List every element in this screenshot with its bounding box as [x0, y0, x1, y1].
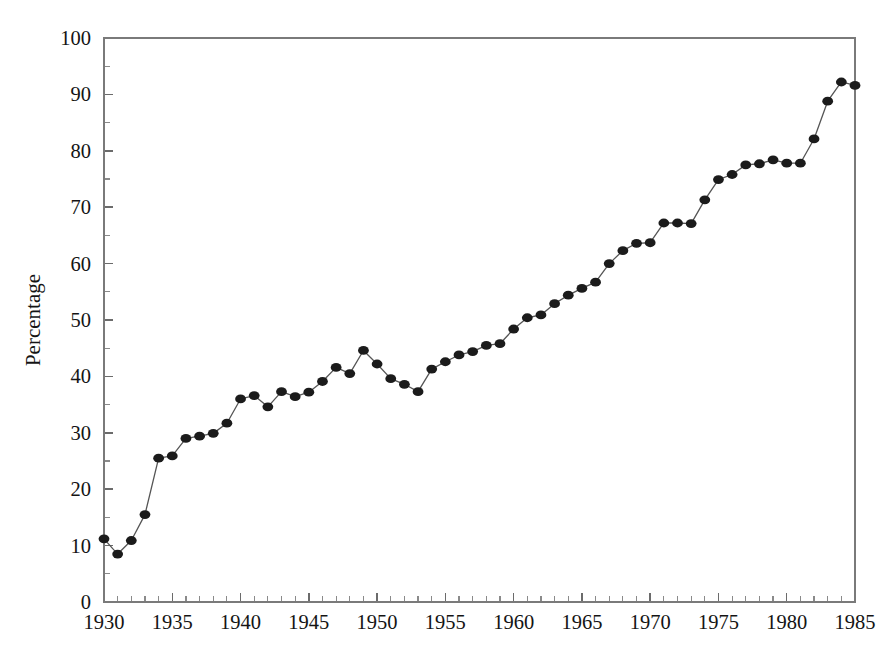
data-point: [577, 284, 588, 293]
data-point: [672, 219, 683, 228]
data-point: [112, 550, 123, 559]
y-tick-label: 40: [71, 365, 92, 387]
data-point: [781, 159, 792, 168]
y-tick-label: 60: [71, 253, 92, 275]
data-point: [631, 239, 642, 248]
x-tick-label: 1930: [84, 611, 125, 633]
data-point: [235, 395, 246, 404]
y-tick-label: 70: [71, 196, 92, 218]
x-tick-label: 1975: [698, 611, 739, 633]
data-point: [262, 402, 273, 411]
data-point: [495, 339, 506, 348]
data-point: [221, 419, 232, 428]
x-tick-label: 1970: [630, 611, 671, 633]
data-point: [331, 363, 342, 372]
y-axis-tick-labels: 0102030405060708090100: [60, 27, 91, 613]
data-point: [467, 347, 478, 356]
data-point: [850, 81, 861, 90]
data-point: [153, 454, 164, 463]
x-axis-ticks: [104, 593, 855, 602]
data-point: [413, 387, 424, 396]
y-tick-label: 10: [71, 535, 92, 557]
line-chart: 0102030405060708090100 19301935194019451…: [0, 0, 890, 659]
y-tick-label: 90: [71, 83, 92, 105]
data-point: [809, 135, 820, 144]
y-tick-label: 80: [71, 140, 92, 162]
data-point: [522, 313, 533, 322]
data-point: [372, 360, 383, 369]
data-point: [181, 434, 192, 443]
data-point: [754, 159, 765, 168]
data-point: [344, 369, 355, 378]
y-axis-ticks: [104, 38, 113, 602]
data-point: [549, 299, 560, 308]
x-axis-tick-labels: 1930193519401945195019551960196519701975…: [84, 611, 876, 633]
chart-figure: 0102030405060708090100 19301935194019451…: [0, 0, 890, 659]
x-tick-label: 1945: [288, 611, 329, 633]
x-tick-label: 1985: [835, 611, 876, 633]
data-point: [617, 246, 628, 255]
data-series-points: [99, 78, 861, 559]
data-point: [276, 387, 287, 396]
data-point: [167, 452, 178, 461]
data-point: [795, 159, 806, 168]
data-point: [604, 259, 615, 268]
data-point: [194, 432, 205, 441]
data-point: [658, 219, 669, 228]
x-tick-label: 1980: [766, 611, 807, 633]
y-axis-title: Percentage: [21, 274, 45, 366]
x-tick-label: 1950: [357, 611, 398, 633]
data-point: [481, 341, 492, 350]
x-tick-label: 1960: [493, 611, 534, 633]
data-point: [508, 325, 519, 334]
data-point: [590, 278, 601, 287]
x-tick-label: 1965: [561, 611, 602, 633]
y-tick-label: 30: [71, 422, 92, 444]
data-point: [645, 238, 656, 247]
x-tick-label: 1940: [220, 611, 261, 633]
data-point: [727, 170, 738, 179]
data-point: [740, 161, 751, 170]
data-point: [290, 392, 301, 401]
data-series-line: [104, 82, 855, 554]
x-tick-label: 1955: [425, 611, 466, 633]
data-point: [686, 219, 697, 228]
data-point: [822, 97, 833, 106]
data-point: [536, 311, 547, 320]
y-tick-label: 0: [81, 591, 91, 613]
data-point: [440, 357, 451, 366]
axis-frame: [104, 38, 855, 602]
data-point: [768, 155, 779, 164]
data-point: [358, 346, 369, 355]
data-point: [140, 510, 151, 519]
data-point: [317, 377, 328, 386]
x-tick-label: 1935: [152, 611, 193, 633]
y-tick-label: 20: [71, 478, 92, 500]
data-point: [426, 365, 437, 374]
data-point: [454, 351, 465, 360]
data-point: [99, 534, 110, 543]
data-point: [126, 536, 137, 545]
data-point: [699, 195, 710, 204]
data-point: [399, 380, 410, 389]
data-point: [249, 391, 260, 400]
data-point: [303, 388, 314, 397]
y-tick-label: 50: [71, 309, 92, 331]
data-point: [713, 175, 724, 184]
data-point: [836, 78, 847, 87]
y-tick-label: 100: [60, 27, 91, 49]
data-point: [208, 429, 219, 438]
data-point: [563, 291, 574, 300]
data-point: [385, 374, 396, 383]
